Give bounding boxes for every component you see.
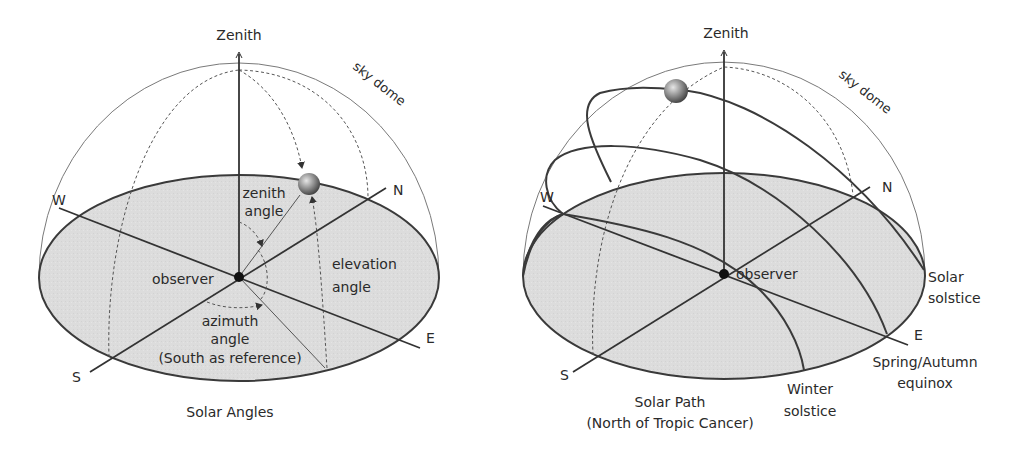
zenith-to-sun-arc bbox=[239, 70, 302, 168]
south-label-right: S bbox=[560, 367, 569, 383]
left-diagram-solar-angles: Zenith sky dome W N E S observer zenith … bbox=[39, 27, 439, 420]
sun-icon bbox=[298, 173, 320, 195]
zenith-angle-label-2: angle bbox=[245, 203, 284, 219]
winter-solstice-label-1: Winter bbox=[787, 381, 833, 397]
observer-label-right: observer bbox=[736, 266, 798, 282]
east-label: E bbox=[426, 330, 435, 346]
left-caption: Solar Angles bbox=[186, 404, 273, 420]
right-caption-2: (North of Tropic Cancer) bbox=[586, 415, 753, 431]
observer-dot bbox=[234, 272, 244, 282]
equinox-label-1: Spring/Autumn bbox=[872, 354, 977, 370]
azimuth-angle-label-1: azimuth bbox=[202, 313, 259, 329]
zenith-angle-label-1: zenith bbox=[242, 185, 285, 201]
north-label: N bbox=[393, 182, 403, 198]
equinox-label-2: equinox bbox=[897, 375, 953, 391]
observer-dot-right bbox=[719, 269, 729, 279]
sky-dome-label-right: sky dome bbox=[836, 67, 895, 117]
observer-label: observer bbox=[152, 271, 214, 287]
solar-solstice-label-1: Solar bbox=[928, 269, 964, 285]
elevation-angle-label-1: elevation bbox=[332, 256, 397, 272]
south-label: S bbox=[72, 369, 81, 385]
elevation-angle-label-2: angle bbox=[332, 279, 371, 295]
sun-icon-right bbox=[664, 79, 688, 103]
zenith-label: Zenith bbox=[216, 27, 261, 43]
east-label-right: E bbox=[914, 327, 923, 343]
zenith-label-right: Zenith bbox=[703, 25, 748, 41]
right-caption-1: Solar Path bbox=[635, 394, 706, 410]
north-label-right: N bbox=[882, 179, 892, 195]
solar-solstice-label-2: solstice bbox=[928, 290, 981, 306]
azimuth-angle-label-3: (South as reference) bbox=[158, 350, 301, 366]
azimuth-angle-label-2: angle bbox=[211, 331, 250, 347]
west-label: W bbox=[52, 192, 66, 208]
sky-dome-label: sky dome bbox=[350, 59, 409, 109]
west-label-right: W bbox=[540, 189, 554, 205]
solar-diagrams: Zenith sky dome W N E S observer zenith … bbox=[0, 0, 1018, 449]
right-diagram-solar-path: Zenith sky dome W N E S observer Solar s… bbox=[523, 25, 981, 431]
winter-solstice-label-2: solstice bbox=[784, 403, 837, 419]
